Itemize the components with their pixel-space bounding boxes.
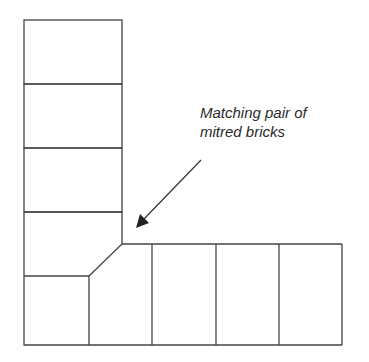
horizontal-brick-row [89, 244, 342, 345]
vertical-brick-column [24, 20, 122, 345]
pointer-arrow [136, 160, 201, 228]
brick-v4 [24, 212, 122, 244]
brick-v2 [24, 84, 122, 148]
mitre-joint [89, 244, 122, 276]
annotation-line-2: mitred bricks [200, 122, 307, 141]
brick-corner [24, 276, 89, 345]
annotation-label: Matching pair of mitred bricks [200, 103, 307, 141]
brick-v1 [24, 20, 122, 84]
brick-v3 [24, 148, 122, 212]
annotation-line-1: Matching pair of [200, 103, 307, 122]
brick-corner-diagram [0, 0, 369, 362]
